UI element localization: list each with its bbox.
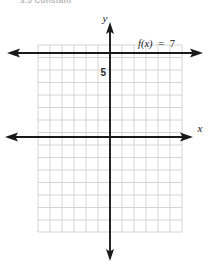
y-tick-label-5: 5: [100, 67, 106, 78]
function-annotation: f(x) = 7: [138, 38, 175, 50]
y-axis-label: y: [102, 12, 108, 24]
function-annotation-equals: =: [158, 38, 164, 49]
function-annotation-name: f(x): [138, 38, 153, 50]
coordinate-plane-graphic: y x 5 f(x) = 7: [0, 0, 218, 272]
function-annotation-value: 7: [170, 38, 175, 49]
x-axis: [5, 133, 193, 142]
function-line-fx-7: [7, 49, 203, 58]
x-axis-label: x: [197, 122, 203, 134]
graph-figure: 3.5 Constant: [0, 0, 218, 272]
